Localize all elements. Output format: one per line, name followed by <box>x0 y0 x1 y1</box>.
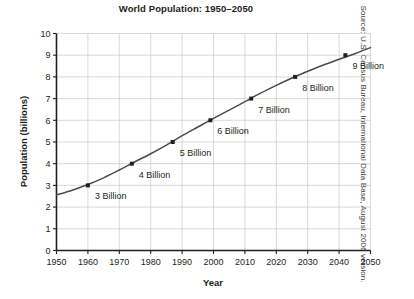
y-axis-tick-labels: 012345678910 <box>40 29 50 256</box>
y-tick-label: 10 <box>40 29 50 39</box>
milestone-label: 9 Billion <box>352 61 384 71</box>
data-point-marker <box>293 75 297 79</box>
y-tick-label: 0 <box>45 246 50 256</box>
milestone-label: 3 Billion <box>95 191 127 201</box>
x-tick-label: 2000 <box>203 257 223 267</box>
x-tick-label: 2030 <box>298 257 318 267</box>
y-tick-label: 9 <box>45 50 50 60</box>
data-point-marker <box>208 118 212 122</box>
y-tick-label: 2 <box>45 202 50 212</box>
y-tick-label: 8 <box>45 72 50 82</box>
y-tick-label: 4 <box>45 159 50 169</box>
y-tick-label: 7 <box>45 94 50 104</box>
world-population-chart-figure: World Population: 1950–2050 Population (… <box>0 0 414 299</box>
data-point-marker <box>130 162 134 166</box>
x-tick-label: 2040 <box>329 257 349 267</box>
x-tick-label: 2050 <box>360 257 380 267</box>
y-tick-label: 1 <box>45 224 50 234</box>
x-tick-label: 1980 <box>141 257 161 267</box>
data-point-marker <box>171 140 175 144</box>
x-tick-label: 1960 <box>78 257 98 267</box>
milestone-labels: 3 Billion4 Billion5 Billion6 Billion7 Bi… <box>95 61 384 201</box>
y-tick-label: 5 <box>45 137 50 147</box>
x-tick-label: 1950 <box>46 257 66 267</box>
data-point-marker <box>86 183 90 187</box>
x-tick-label: 2010 <box>235 257 255 267</box>
x-tick-label: 1990 <box>172 257 192 267</box>
data-point-marker <box>249 97 253 101</box>
y-tick-label: 3 <box>45 181 50 191</box>
milestone-label: 7 Billion <box>258 105 290 115</box>
data-point-marker <box>343 53 347 57</box>
x-tick-label: 1970 <box>109 257 129 267</box>
milestone-label: 6 Billion <box>217 126 249 136</box>
plot-area: 012345678910 195019601970198019902000201… <box>0 0 414 299</box>
x-axis-tick-labels: 1950196019701980199020002010202020302040… <box>46 257 380 267</box>
milestone-label: 8 Billion <box>302 83 334 93</box>
milestone-label: 5 Billion <box>180 148 212 158</box>
y-tick-label: 6 <box>45 116 50 126</box>
x-tick-label: 2020 <box>266 257 286 267</box>
milestone-label: 4 Billion <box>139 170 171 180</box>
